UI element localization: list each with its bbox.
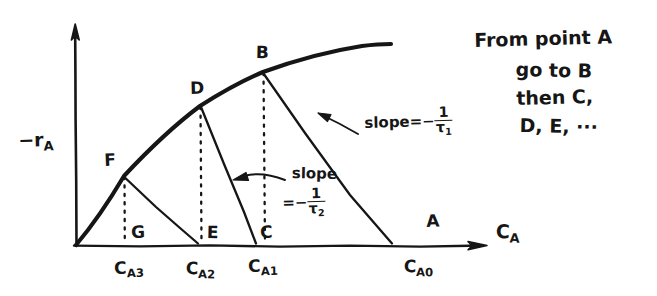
slope-annotation-2-line2: =−1τ2 (282, 187, 326, 219)
x-axis-label: CA (496, 222, 520, 246)
axis-point-label-g: G (131, 224, 145, 241)
axis-point-label-e: E (207, 224, 219, 241)
x-axis-arrowhead (468, 242, 487, 250)
slope-annotation-1: slope=−1τ1 (364, 106, 453, 139)
tick-label-ca3: CA3 (114, 259, 144, 280)
slope2-arrowhead (233, 173, 249, 181)
drop-line-b-c (264, 73, 266, 243)
slope-annotation-2-line1: slope (292, 166, 338, 182)
rate-curve (76, 44, 391, 245)
point-label-d: D (190, 80, 205, 97)
sketch-figure: −rA CA F D B G E C A CA3 CA2 CA1 CA0 slo… (0, 0, 657, 296)
point-label-b: B (256, 44, 269, 61)
y-axis-arrowhead (71, 24, 79, 40)
note-line-4: D, E, ··· (519, 113, 598, 139)
x-axis (74, 245, 470, 246)
y-axis-label: −rA (18, 130, 54, 154)
axis-point-label-c: C (260, 224, 273, 241)
tick-label-ca1: CA1 (248, 257, 278, 278)
drop-line-d-e (201, 107, 202, 243)
slope1-arrowhead (318, 113, 331, 122)
point-label-f: F (104, 151, 116, 168)
y-axis (75, 38, 76, 246)
note-line-2: go to B (515, 57, 592, 83)
note-line-1: From point A (474, 24, 612, 52)
tick-label-ca2: CA2 (186, 260, 216, 281)
tick-label-ca0: CA0 (404, 258, 434, 279)
axis-point-label-a: A (426, 212, 440, 230)
note-line-3: then C, (516, 84, 593, 110)
slope1-leader-arrow (326, 117, 358, 134)
